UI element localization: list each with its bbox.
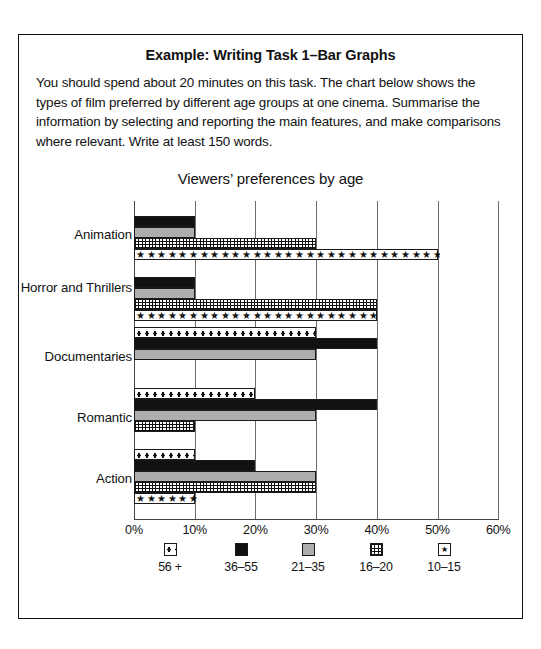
category-label: Horror and Thrillers	[0, 280, 132, 296]
x-tick-label: 10%	[182, 523, 207, 537]
bar-black	[134, 460, 255, 471]
bar-gray	[134, 410, 316, 421]
bar-gray	[134, 349, 316, 360]
legend-swatch-grid	[370, 543, 383, 556]
x-tick-label: 40%	[364, 523, 389, 537]
legend-item[interactable]: ★10–15	[399, 543, 489, 574]
chart-category-axis	[134, 519, 499, 520]
bar-group: Action★★★★★★★	[19, 449, 524, 509]
task-prompt: You should spend about 20 minutes on thi…	[36, 73, 508, 151]
bar-black	[134, 277, 195, 288]
bar-group: Romantic	[19, 388, 524, 448]
category-label: Animation	[0, 227, 132, 243]
bar-star: ★★★★★★★★★★★★★★★★★★★★★★★★★★★★★★★★★★	[134, 249, 438, 260]
x-tick-label: 20%	[243, 523, 268, 537]
bar-group: Horror and Thrillers★★★★★★★★★★★★★★★★★★★★…	[19, 266, 524, 326]
bar-grid	[134, 482, 316, 493]
bar-grid	[134, 238, 316, 249]
legend-swatch-gray	[302, 543, 315, 556]
bar-grid	[134, 421, 195, 432]
category-label: Documentaries	[0, 349, 132, 365]
bar-dotted	[134, 388, 255, 399]
bar-gray	[134, 227, 195, 238]
x-tick-label: 60%	[486, 523, 511, 537]
bar-gray	[134, 288, 195, 299]
example-title: Example: Writing Task 1–Bar Graphs	[19, 47, 522, 63]
example-box: Example: Writing Task 1–Bar Graphs You s…	[18, 34, 523, 619]
category-label: Action	[0, 471, 132, 487]
bar-black	[134, 216, 195, 227]
bar-star: ★★★★★★★★★★★★★★★★★★★★★★★★★★★	[134, 310, 377, 321]
x-tick-label: 30%	[304, 523, 329, 537]
bar-grid	[134, 299, 377, 310]
chart-title: Viewers’ preferences by age	[19, 170, 522, 187]
legend-swatch-star: ★	[438, 543, 451, 556]
legend-label: 10–15	[399, 560, 489, 574]
star-fill: ★★★★★★★★★★★★★★★★★★★★★★★★★★★	[135, 311, 379, 320]
bar-chart: Animation★★★★★★★★★★★★★★★★★★★★★★★★★★★★★★★…	[19, 201, 524, 521]
worksheet-page: Example: Writing Task 1–Bar Graphs You s…	[0, 0, 541, 649]
chart-x-tick-labels: 0%10%20%30%40%50%60%	[19, 523, 524, 543]
x-tick-label: 50%	[425, 523, 450, 537]
legend-swatch-dotted	[164, 543, 177, 556]
bar-group: Documentaries	[19, 327, 524, 387]
chart-legend: 56 +36–5521–3516–20★10–15	[19, 543, 524, 589]
star-fill: ★★★★★★★	[135, 494, 197, 503]
category-label: Romantic	[0, 410, 132, 426]
bar-dotted	[134, 327, 316, 338]
bar-group: Animation★★★★★★★★★★★★★★★★★★★★★★★★★★★★★★★…	[19, 205, 524, 265]
x-tick-label: 0%	[125, 523, 143, 537]
star-fill: ★★★★★★★★★★★★★★★★★★★★★★★★★★★★★★★★★★	[135, 250, 440, 259]
legend-swatch-black	[235, 543, 248, 556]
bar-black	[134, 399, 377, 410]
bar-black	[134, 338, 377, 349]
bar-gray	[134, 471, 316, 482]
bar-star: ★★★★★★★	[134, 493, 195, 504]
bar-dotted	[134, 449, 195, 460]
